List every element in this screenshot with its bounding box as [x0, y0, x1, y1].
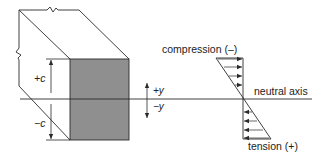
- beam-block: [16, 7, 129, 140]
- compression-label: compression (–): [162, 44, 237, 55]
- plus-c-label: +c: [34, 73, 45, 84]
- minus-y-label: −y: [153, 102, 164, 112]
- cross-section-face: [70, 59, 129, 140]
- break-mark-icon: [19, 7, 79, 12]
- break-mark-icon: [16, 10, 21, 86]
- compression-arrows: [218, 59, 242, 85]
- stress-distribution: [216, 58, 271, 139]
- tension-label: tension (+): [248, 141, 298, 152]
- plus-y-label: +y: [153, 86, 164, 96]
- beam-bending-stress-diagram: +c −c +y −y compression (–) neutral axis…: [0, 0, 328, 164]
- neutral-axis-label: neutral axis: [254, 86, 308, 97]
- minus-c-label: −c: [34, 118, 45, 129]
- tension-arrows: [244, 112, 269, 138]
